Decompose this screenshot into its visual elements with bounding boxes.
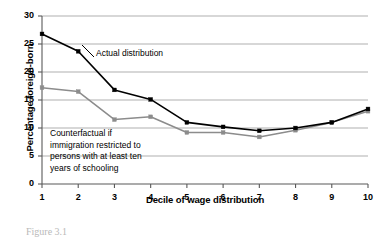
annotation-line: immigration restricted to bbox=[50, 140, 142, 152]
y-axis-title: Percentage foreign-born bbox=[24, 13, 35, 183]
figure-root: 051015202530 12345678910 Percentage fore… bbox=[0, 0, 387, 239]
annotation-actual-distribution: Actual distribution bbox=[96, 48, 163, 60]
x-axis-title: Decile of wage distribution bbox=[42, 194, 368, 205]
actual-label-leader-line bbox=[82, 45, 94, 57]
series-markers-actual bbox=[40, 32, 370, 133]
annotation-line: persons with at least ten bbox=[50, 151, 142, 163]
annotation-line: years of schooling bbox=[50, 163, 142, 175]
line-chart-svg bbox=[0, 0, 387, 210]
x-tick-marks bbox=[42, 184, 368, 188]
annotation-line: Counterfactual if bbox=[50, 128, 142, 140]
series-line-actual bbox=[42, 34, 368, 131]
annotation-counterfactual: Counterfactual ifimmigration restricted … bbox=[50, 128, 142, 174]
figure-caption: Figure 3.1 bbox=[26, 226, 67, 239]
y-tick-marks bbox=[38, 16, 42, 184]
chart-plot-area: 051015202530 12345678910 Percentage fore… bbox=[0, 0, 387, 210]
